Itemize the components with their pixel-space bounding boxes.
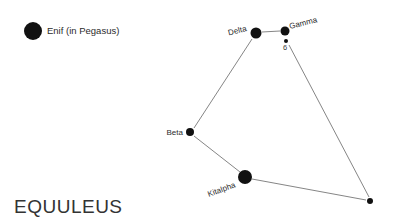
line-beta-kitalpha (194, 136, 240, 172)
star-gamma[interactable] (281, 27, 290, 36)
star-beta[interactable] (186, 128, 194, 136)
line-kitalpha-southeast (252, 179, 366, 200)
star-label-gamma: Gamma (288, 15, 318, 31)
star-kitalpha[interactable] (238, 170, 252, 184)
star-label-kitalpha: Kitalpha (206, 180, 237, 199)
constellation-canvas: Delta Gamma 6 Beta Kitalpha Enif (in Peg… (0, 0, 394, 222)
chart-title: EQUULEUS (14, 196, 123, 217)
star-label-beta: Beta (167, 128, 184, 137)
star-unlabeled-south-east[interactable] (367, 198, 373, 204)
legend-star-marker[interactable] (24, 22, 42, 40)
star-label-6: 6 (283, 43, 287, 52)
star-label-delta: Delta (227, 24, 248, 37)
legend: Enif (in Pegasus) (24, 22, 119, 40)
star-delta[interactable] (251, 28, 262, 39)
line-gamma-southeast (289, 45, 369, 197)
constellation-lines-group (194, 31, 369, 200)
legend-label-enif: Enif (in Pegasus) (47, 25, 119, 36)
line-delta-beta (194, 39, 252, 128)
star-chart-equuleus: Delta Gamma 6 Beta Kitalpha Enif (in Peg… (0, 0, 394, 222)
stars-group (186, 27, 373, 205)
line-delta-gamma (262, 31, 280, 32)
